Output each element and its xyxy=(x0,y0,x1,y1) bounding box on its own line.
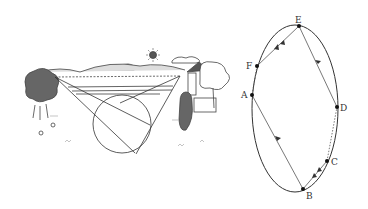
tree-left-icon xyxy=(25,68,59,120)
point-label-e: E xyxy=(295,15,302,25)
point-label-f: F xyxy=(246,61,252,71)
point-label-d: D xyxy=(340,103,347,113)
diagram-canvas: E F A D C B xyxy=(0,0,368,209)
bush-icon xyxy=(179,92,192,130)
point-label-c: C xyxy=(331,157,338,167)
ellipse-diagram: E F A D C B xyxy=(240,15,347,201)
circle-figure xyxy=(93,95,151,153)
sun-icon xyxy=(146,48,160,62)
landscape-illustration xyxy=(25,48,230,154)
point-label-b: B xyxy=(306,191,313,201)
point-label-a: A xyxy=(240,90,248,100)
